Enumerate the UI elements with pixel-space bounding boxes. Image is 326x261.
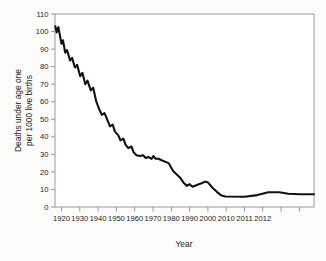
y-tick-label: 80 [40, 62, 48, 71]
y-tick-label: 40 [40, 132, 48, 141]
x-tick-label: 2011 [236, 214, 252, 223]
line-chart-svg: 0102030405060708090100110 19201930194019… [0, 0, 326, 261]
x-tick-label: 1980 [163, 214, 180, 223]
y-axis: 0102030405060708090100110 [36, 10, 55, 212]
x-tick-label: 2010 [218, 214, 235, 223]
y-tick-label: 100 [36, 27, 49, 36]
x-tick-label: 1920 [53, 214, 70, 223]
y-tick-label: 90 [40, 45, 48, 54]
y-tick-label: 10 [40, 185, 48, 194]
x-axis: 1920193019401950196019701980199020002010… [53, 207, 299, 223]
x-tick-label: 2012 [254, 214, 271, 223]
x-tick-label: 1950 [108, 214, 125, 223]
x-tick-label: 1990 [181, 214, 198, 223]
y-tick-label: 20 [40, 168, 48, 177]
chart-figure: 0102030405060708090100110 19201930194019… [0, 0, 326, 261]
y-tick-label: 110 [36, 10, 48, 19]
y-axis-title-line1: Deaths under age one [13, 69, 23, 152]
x-tick-label: 2000 [199, 214, 216, 223]
plot-area [55, 14, 314, 207]
y-tick-label: 50 [40, 115, 48, 124]
y-tick-label: 70 [40, 80, 48, 89]
x-tick-label: 1940 [90, 214, 107, 223]
y-tick-label: 60 [40, 97, 48, 106]
y-axis-title-line2: per 1000 live births [24, 75, 34, 146]
x-axis-title: Year [176, 239, 193, 249]
x-tick-label: 1970 [145, 214, 162, 223]
x-tick-label: 1960 [126, 214, 143, 223]
x-tick-label: 1930 [71, 214, 88, 223]
y-tick-label: 0 [44, 203, 48, 212]
y-tick-label: 30 [40, 150, 48, 159]
